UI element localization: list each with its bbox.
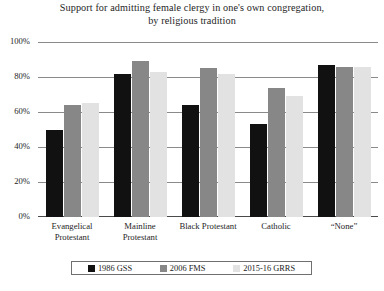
legend-label: 1986 GSS [98,264,132,273]
x-axis-label: Black Protestant [174,221,242,251]
bar [182,105,199,217]
legend-label: 2006 FMS [170,264,206,273]
bar [150,72,167,217]
bar [218,74,235,218]
bar [336,67,353,218]
x-axis-tick-labels: EvangelicalProtestantMainlineProtestantB… [38,221,378,251]
x-axis-label: MainlineProtestant [106,221,174,251]
x-axis-label-line: “None” [310,221,378,232]
chart-title-line-1: Support for admitting female clergy in o… [0,2,384,15]
bar [268,88,285,218]
bar-group [242,42,310,217]
bar-group [174,42,242,217]
y-tick-80: 80% [0,72,30,81]
bar-chart: Support for admitting female clergy in o… [0,0,384,291]
x-axis-label: “None” [310,221,378,251]
bar [82,103,99,217]
chart-title: Support for admitting female clergy in o… [0,2,384,27]
x-axis-label-line: Protestant [106,232,174,243]
bar [318,65,335,217]
legend-swatch-icon [88,265,95,272]
legend-label: 2015-16 GRRS [243,264,295,273]
x-axis-label-line: Black Protestant [174,221,242,232]
bar [250,124,267,217]
x-axis-label: Catholic [242,221,310,251]
bar [286,96,303,217]
legend-item-1986-gss: 1986 GSS [88,264,132,273]
bar-group [38,42,106,217]
bar [132,61,149,217]
bar-group [310,42,378,217]
x-axis-label-line: Protestant [38,232,106,243]
x-axis-label-line: Mainline [106,221,174,232]
plot-area [38,42,378,217]
bar [200,68,217,217]
x-axis-label-line: Evangelical [38,221,106,232]
bar [354,67,371,218]
legend-item-2015-16-grrs: 2015-16 GRRS [233,264,295,273]
legend-item-2006-fms: 2006 FMS [160,264,206,273]
bar [64,105,81,217]
chart-legend: 1986 GSS 2006 FMS 2015-16 GRRS [71,261,312,275]
x-axis-label-line: Catholic [242,221,310,232]
legend-swatch-icon [160,265,167,272]
legend-swatch-icon [233,265,240,272]
bar-groups [38,42,378,217]
bar-group [106,42,174,217]
y-tick-60: 60% [0,107,30,116]
x-axis-label: EvangelicalProtestant [38,221,106,251]
bar [114,74,131,218]
y-tick-100: 100% [0,37,30,46]
y-axis-tick-labels: 100% 80% 60% 40% 20% 0% [0,42,34,217]
chart-title-line-2: by religious tradition [0,15,384,28]
y-tick-20: 20% [0,177,30,186]
y-tick-40: 40% [0,142,30,151]
y-tick-0: 0% [0,212,30,221]
bar [46,130,63,218]
